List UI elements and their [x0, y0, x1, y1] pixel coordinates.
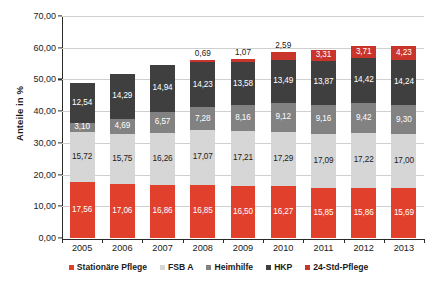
legend-item[interactable]: Stationäre Pflege	[69, 262, 147, 272]
bar-segment[interactable]: 14,94	[150, 65, 175, 112]
bar-segment[interactable]: 16,27	[271, 186, 296, 238]
legend-label: Stationäre Pflege	[77, 262, 147, 272]
x-axis-tick-label: 2009	[233, 243, 253, 253]
x-axis-tick-label: 2011	[314, 243, 334, 253]
x-axis-tick-mark	[344, 239, 345, 243]
bar-column[interactable]: 15,8517,099,1613,873,31	[311, 50, 336, 238]
bar-segment-value: 15,69	[394, 209, 414, 217]
bar-segment[interactable]: 14,24	[391, 60, 416, 105]
bar-segment[interactable]: 17,00	[391, 134, 416, 188]
bar-segment[interactable]: 17,56	[70, 182, 95, 238]
bar-segment[interactable]: 17,21	[231, 131, 256, 186]
bar-segment-value: 9,30	[396, 116, 412, 124]
bar-segment[interactable]: 14,23	[190, 62, 215, 107]
bar-segment[interactable]: 4,69	[110, 119, 135, 134]
legend-label: Heimhilfe	[214, 262, 253, 272]
bar-segment[interactable]: 3,10	[70, 123, 95, 133]
bar-segment-value: 14,23	[193, 81, 213, 89]
bar-segment[interactable]: 14,42	[351, 58, 376, 104]
bar-segment[interactable]: 16,26	[150, 133, 175, 185]
bar-column[interactable]: 16,5017,218,1613,58	[231, 59, 256, 238]
bar-segment[interactable]: 17,06	[110, 184, 135, 238]
bar-segment[interactable]: 15,75	[110, 134, 135, 184]
bar-segment-value: 3,71	[356, 48, 372, 56]
bar-segment[interactable]: 6,57	[150, 112, 175, 133]
bar-segment[interactable]: 13,87	[311, 61, 336, 105]
bar-segment-value: 13,58	[233, 80, 253, 88]
legend-item[interactable]: 24-Std-Pflege	[305, 262, 368, 272]
bar-segment-value: 16,86	[153, 207, 173, 215]
bar-segment[interactable]: 17,29	[271, 132, 296, 187]
y-axis-title: Anteile in %	[14, 69, 25, 159]
legend-item[interactable]: FSB A	[160, 262, 193, 272]
bar-segment[interactable]: 16,85	[190, 185, 215, 238]
bar-segment-value: 14,42	[354, 76, 374, 84]
y-axis-tick-label: 0,00	[38, 233, 56, 243]
bar-segment[interactable]: 9,12	[271, 103, 296, 132]
bar-segment[interactable]: 13,58	[231, 62, 256, 105]
bar-segment[interactable]: 9,16	[311, 105, 336, 134]
legend-item[interactable]: Heimhilfe	[206, 262, 253, 272]
bar-segment[interactable]: 3,71	[351, 46, 376, 58]
bar-segment[interactable]: 15,69	[391, 188, 416, 238]
bar-segment-value: 17,29	[273, 155, 293, 163]
bar-column[interactable]: 16,2717,299,1213,49	[271, 52, 296, 238]
bar-segment-value: 9,42	[356, 114, 372, 122]
bar-segment-value: 15,86	[354, 209, 374, 217]
bar-segment-value: 16,85	[193, 207, 213, 215]
bar-segment-value-outside: 0,69	[195, 50, 211, 58]
x-axis-tick-label: 2006	[112, 243, 132, 253]
y-axis-tick-label: 50,00	[33, 74, 56, 84]
bar-segment-value: 12,54	[72, 99, 92, 107]
x-axis-tick-mark	[384, 239, 385, 243]
bar-segment[interactable]: 8,16	[231, 105, 256, 131]
bar-segment[interactable]: 15,72	[70, 132, 95, 182]
bar-segment[interactable]: 9,30	[391, 105, 416, 134]
legend-label: FSB A	[168, 262, 193, 272]
bar-segment[interactable]: 17,22	[351, 133, 376, 188]
bar-column[interactable]: 16,8517,077,2814,23	[190, 60, 215, 238]
legend-swatch-icon	[305, 265, 310, 270]
bar-segment-value: 7,28	[195, 115, 211, 123]
y-axis-tick-label: 20,00	[33, 170, 56, 180]
x-axis-tick-mark	[223, 239, 224, 243]
bar-segment[interactable]: 14,29	[110, 74, 135, 119]
bar-segment[interactable]: 17,07	[190, 130, 215, 184]
legend-swatch-icon	[69, 265, 74, 270]
bar-segment-value: 3,10	[74, 123, 90, 131]
bar-segment[interactable]: 12,54	[70, 83, 95, 123]
bar-segment[interactable]: 16,50	[231, 186, 256, 238]
bar-segment[interactable]	[271, 52, 296, 60]
bar-column[interactable]: 17,5615,723,1012,54	[70, 83, 95, 238]
bar-segment-value: 6,57	[155, 118, 171, 126]
y-axis-tick-label: 40,00	[33, 106, 56, 116]
bar-column[interactable]: 17,0615,754,6914,29	[110, 74, 135, 238]
legend-swatch-icon	[206, 265, 211, 270]
bar-segment[interactable]: 13,49	[271, 60, 296, 103]
legend-item[interactable]: HKP	[266, 262, 292, 272]
x-axis-tick-label: 2013	[394, 243, 414, 253]
bar-column[interactable]: 15,8617,229,4214,423,71	[351, 46, 376, 238]
bar-segment[interactable]: 3,31	[311, 50, 336, 60]
bar-column[interactable]: 16,8616,266,5714,94	[150, 65, 175, 238]
stacked-bar-chart: Anteile in % 0,0010,0020,0030,0040,0050,…	[0, 0, 437, 288]
bar-segment-value: 15,72	[72, 153, 92, 161]
bar-segment[interactable]: 16,86	[150, 185, 175, 238]
bar-segment-value: 13,49	[273, 77, 293, 85]
bar-segment-value: 17,22	[354, 156, 374, 164]
legend-label: HKP	[274, 262, 292, 272]
bar-segment-value: 9,16	[316, 115, 332, 123]
x-axis-tick-mark	[183, 239, 184, 243]
bar-column[interactable]: 15,6917,009,3014,244,23	[391, 46, 416, 238]
bar-segment-value: 17,21	[233, 154, 253, 162]
bar-segment[interactable]: 17,09	[311, 134, 336, 188]
bar-segment[interactable]: 9,42	[351, 103, 376, 133]
bar-segment[interactable]: 15,86	[351, 188, 376, 238]
bar-segment[interactable]: 7,28	[190, 107, 215, 130]
bar-segment[interactable]: 15,85	[311, 188, 336, 238]
bar-segment-value: 16,26	[153, 155, 173, 163]
y-axis-tick-label: 10,00	[33, 201, 56, 211]
x-axis-tick-label: 2010	[273, 243, 293, 253]
bar-segment-value: 15,85	[313, 209, 333, 217]
bar-segment[interactable]: 4,23	[391, 46, 416, 59]
